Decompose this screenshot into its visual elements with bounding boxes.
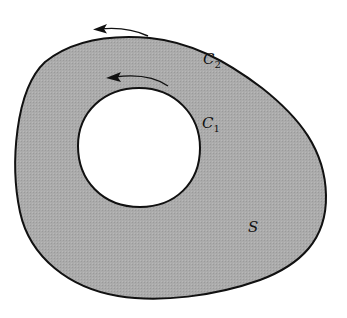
label-s-main: S bbox=[248, 218, 258, 236]
label-c1-sub: 1 bbox=[213, 123, 219, 134]
label-c2-main: C bbox=[203, 50, 214, 68]
label-c2: C2 bbox=[203, 52, 221, 70]
outer-orientation-arrow-icon bbox=[93, 24, 148, 36]
label-c1: C1 bbox=[202, 116, 220, 134]
inner-curve-c1 bbox=[78, 88, 200, 207]
label-c2-sub: 2 bbox=[214, 59, 220, 70]
label-c1-main: C bbox=[202, 114, 213, 132]
label-s: S bbox=[248, 220, 258, 235]
region-diagram bbox=[0, 0, 347, 318]
